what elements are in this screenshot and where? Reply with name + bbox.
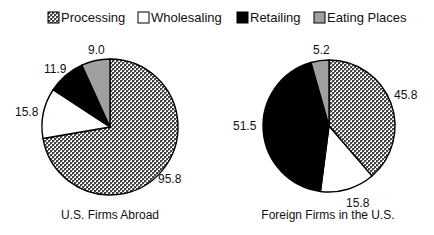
legend: Processing Wholesaling Retailing Eating … bbox=[48, 10, 407, 25]
legend-item-retailing: Retailing bbox=[237, 10, 301, 25]
slice-label-eating-places: 5.2 bbox=[313, 43, 330, 57]
slice-label-retailing: 51.5 bbox=[233, 119, 257, 133]
chart-canvas: Processing Wholesaling Retailing Eating … bbox=[0, 0, 434, 235]
slice-label-processing: 45.8 bbox=[394, 88, 418, 102]
legend-item-eating-places: Eating Places bbox=[314, 10, 407, 25]
legend-item-wholesaling: Wholesaling bbox=[138, 10, 222, 25]
slice-label-eating-places: 9.0 bbox=[88, 43, 105, 57]
legend-item-processing: Processing bbox=[48, 10, 125, 25]
legend-label: Retailing bbox=[250, 10, 301, 25]
legend-label: Wholesaling bbox=[151, 10, 222, 25]
legend-label: Processing bbox=[61, 10, 125, 25]
pie-foreign-firms-in-us bbox=[263, 60, 395, 192]
legend-label: Eating Places bbox=[327, 10, 407, 25]
slice-label-processing: 95.8 bbox=[158, 172, 182, 186]
slice-label-wholesaling: 15.8 bbox=[15, 105, 39, 119]
pie-title: Foreign Firms in the U.S. bbox=[261, 208, 394, 222]
pie-title: U.S. Firms Abroad bbox=[61, 208, 159, 222]
slice-label-retailing: 11.9 bbox=[44, 62, 67, 76]
